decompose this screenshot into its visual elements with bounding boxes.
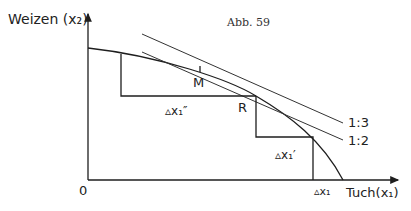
point-r-label: R xyxy=(238,100,247,115)
tangent-label-1-2: 1:2 xyxy=(348,133,369,148)
transformation-curve xyxy=(88,48,343,180)
dx1-label: ▵x₁ xyxy=(314,185,330,198)
dx1-double-prime-label: ▵x₁″ xyxy=(165,104,188,118)
origin-label: 0 xyxy=(79,183,87,198)
figure-caption: Abb. 59 xyxy=(226,16,270,29)
x-axis-label: Tuch(x₁) xyxy=(345,185,399,200)
point-m-label: M xyxy=(193,75,204,90)
step-dx1-prime xyxy=(256,96,313,180)
tangent-label-1-3: 1:3 xyxy=(348,115,369,130)
production-possibility-diagram: Abb. 59 Weizen (x₂) Tuch(x₁) 0 M R ▵x₁″ … xyxy=(0,0,411,211)
dx1-prime-label: ▵x₁′ xyxy=(275,148,296,162)
y-axis-label: Weizen (x₂) xyxy=(8,11,88,27)
